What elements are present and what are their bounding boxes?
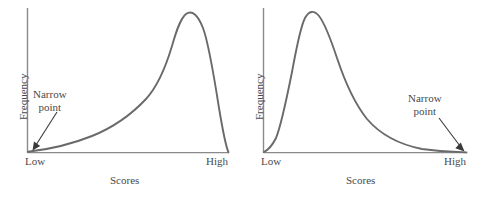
right-x-tick-low: Low xyxy=(261,155,281,168)
skewed-distributions-figure: Frequency Narrow point Low High Scores F… xyxy=(0,0,480,199)
right-y-axis-label: Frequency xyxy=(253,74,266,120)
left-annotation-arrow-shaft xyxy=(36,112,57,145)
right-annotation-line1: Narrow xyxy=(408,92,442,104)
left-annotation-narrow-point: Narrow point xyxy=(33,88,67,114)
left-distribution-curve xyxy=(28,12,229,152)
right-annotation-arrow-shaft xyxy=(439,118,460,146)
left-annotation-line2: point xyxy=(38,101,61,113)
chart-panel-negatively-skewed: Frequency Narrow point Low High Scores xyxy=(0,0,240,199)
chart-panel-positively-skewed: Frequency Narrow point Low High Scores xyxy=(240,0,480,199)
right-annotation-arrow-head xyxy=(455,143,464,152)
right-distribution-curve xyxy=(264,12,467,153)
left-annotation-arrow-head xyxy=(33,142,41,151)
left-x-tick-high: High xyxy=(206,155,228,168)
left-x-tick-low: Low xyxy=(25,155,45,168)
right-x-tick-high: High xyxy=(444,155,466,168)
right-x-axis-label: Scores xyxy=(346,174,375,187)
left-x-axis-label: Scores xyxy=(110,174,139,187)
left-annotation-line1: Narrow xyxy=(33,88,67,100)
right-chart-svg xyxy=(240,0,480,199)
right-annotation-line2: point xyxy=(413,105,436,117)
left-y-axis-label: Frequency xyxy=(17,74,30,120)
right-annotation-narrow-point: Narrow point xyxy=(408,92,442,118)
